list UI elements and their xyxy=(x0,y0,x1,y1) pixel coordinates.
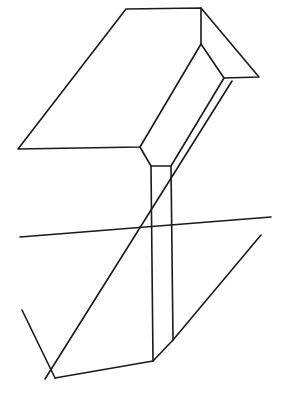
post-base-connector xyxy=(153,340,173,361)
roof-underside xyxy=(140,78,224,166)
gutter-diagonal-line xyxy=(45,81,232,379)
line-drawing xyxy=(0,0,281,411)
right-shadow-line xyxy=(173,235,261,340)
post-right-edge xyxy=(171,166,173,340)
left-shadow-line xyxy=(22,310,55,378)
roof-gable-end xyxy=(201,8,259,78)
drawing-canvas xyxy=(0,0,281,411)
post-left-edge xyxy=(151,166,153,361)
roof-top-face xyxy=(18,8,201,149)
bottom-shadow-line xyxy=(55,361,153,378)
